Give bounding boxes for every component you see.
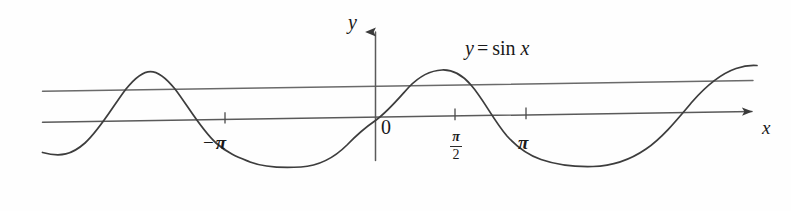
x-axis-line [43, 112, 753, 123]
sine-graph-figure: y x 0 y=sin x −π π 2 π [0, 0, 791, 211]
tick-label-pi-half: π 2 [444, 130, 468, 162]
tick-label-pi: π [518, 133, 528, 152]
curve-label-y: y [465, 37, 474, 59]
pi-symbol: π [216, 132, 226, 153]
fraction-numerator: π [450, 130, 462, 146]
curve-label-x: x [521, 37, 530, 59]
upper-secant-line [43, 81, 754, 92]
curve-equation-label: y=sin x [465, 38, 529, 58]
fraction-pi-over-2: π 2 [450, 130, 462, 162]
fraction-denominator: 2 [450, 147, 462, 163]
x-axis-label: x [762, 118, 770, 137]
origin-label: 0 [381, 117, 391, 137]
graph-canvas [0, 0, 791, 211]
pi-symbol: π [518, 132, 528, 153]
tick-label-neg-pi: −π [203, 133, 226, 152]
minus-sign: − [203, 132, 214, 153]
curve-label-sin: sin [492, 37, 515, 59]
curve-label-equals: = [477, 37, 488, 59]
y-axis-label: y [348, 12, 357, 32]
